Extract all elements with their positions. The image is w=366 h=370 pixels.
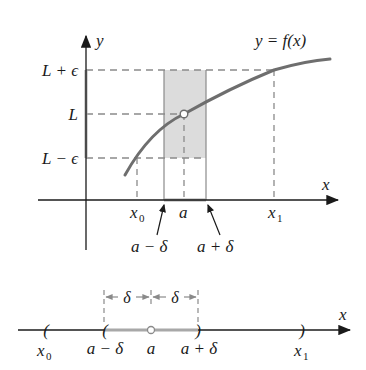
- svg-text:x: x: [267, 203, 276, 222]
- nl-x0-label: x 0: [36, 341, 52, 362]
- nl-a-label: a: [147, 339, 156, 358]
- svg-text:0: 0: [139, 212, 145, 224]
- a-plus-delta-label: a + δ: [197, 237, 234, 256]
- delta-right-label: δ: [171, 289, 179, 306]
- number-line-x-label: x: [338, 305, 347, 324]
- a-minus-delta-label: a − δ: [131, 237, 168, 256]
- number-line: δ δ ( ( ) ) x x 0 a − δ a a + δ x 1: [18, 289, 350, 362]
- a-plus-delta-pointer: [208, 205, 220, 235]
- l-label: L: [68, 105, 78, 124]
- svg-text:1: 1: [303, 350, 309, 362]
- svg-text:0: 0: [46, 350, 52, 362]
- curve-label: y = f(x): [253, 31, 306, 50]
- x0-tick-label: x 0: [129, 203, 145, 224]
- a-hole-point: [148, 327, 155, 334]
- l-minus-eps-label: L − ϵ: [41, 149, 79, 168]
- delta-left-label: δ: [123, 289, 131, 306]
- x-axis-label: x: [321, 175, 330, 194]
- svg-text:x: x: [129, 203, 138, 222]
- a-minus-delta-pointer: [157, 205, 164, 235]
- l-plus-eps-label: L + ϵ: [41, 61, 79, 80]
- a-tick-label: a: [179, 203, 188, 222]
- svg-text:x: x: [36, 341, 45, 360]
- svg-text:1: 1: [277, 212, 283, 224]
- nl-x1-label: x 1: [293, 341, 309, 362]
- nl-a-plus-delta-label: a + δ: [181, 339, 218, 358]
- hole-point: [180, 110, 188, 118]
- top-graph: y x y = f(x) L + ϵ L L − ϵ x 0 a x 1 a −…: [38, 31, 338, 256]
- x1-tick-label: x 1: [267, 203, 283, 224]
- y-axis-label: y: [94, 31, 104, 50]
- x1-paren: ): [298, 321, 305, 340]
- svg-text:x: x: [293, 341, 302, 360]
- function-curve: [125, 59, 330, 175]
- nl-a-minus-delta-label: a − δ: [87, 339, 124, 358]
- a-plus-delta-paren: ): [194, 321, 201, 340]
- epsilon-delta-diagram: y x y = f(x) L + ϵ L L − ϵ x 0 a x 1 a −…: [0, 0, 366, 370]
